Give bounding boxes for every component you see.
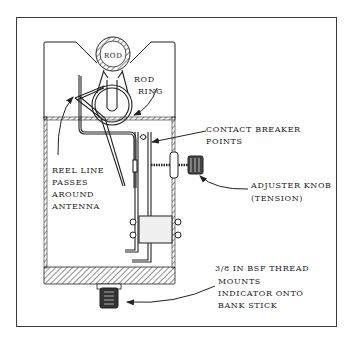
label-adjuster-1: ADJUSTER KNOB (251, 180, 332, 192)
adjuster-arrow (200, 176, 248, 189)
contact-arrow (152, 131, 206, 142)
label-thread-2: MOUNTS (218, 276, 261, 288)
label-contact-2: POINTS (206, 136, 243, 148)
label-thread-3: INDICATOR ONTO (218, 288, 304, 300)
label-reel-line-3: AROUND (52, 189, 94, 201)
label-reel-line-2: PASSES (52, 177, 88, 189)
threaded-stud (97, 284, 121, 308)
label-thread-1: 3/8 IN BSF THREAD (215, 263, 309, 275)
adjuster-knob (151, 152, 203, 178)
label-reel-line-1: REEL LINE (52, 165, 104, 177)
label-contact-1: CONTACT BREAKER (206, 124, 301, 136)
reel-line-arrow (58, 97, 73, 155)
label-rod-ring-2: RING (138, 86, 163, 98)
label-rod: ROD (104, 50, 122, 62)
label-reel-line-4: ANTENNA (52, 201, 100, 213)
thread-arrow (127, 286, 215, 302)
label-thread-4: BANK STICK (218, 300, 277, 312)
label-adjuster-2: (TENSION) (251, 193, 303, 205)
label-rod-ring-1: ROD (134, 74, 155, 86)
